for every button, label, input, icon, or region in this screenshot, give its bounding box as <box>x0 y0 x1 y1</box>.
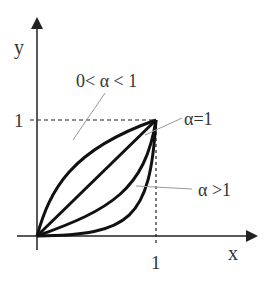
x-axis-label: x <box>228 242 238 264</box>
power-curves-diagram: y x 1 1 0< α < 1 α=1 α >1 <box>0 0 272 292</box>
curve-linear <box>37 120 156 236</box>
y-axis-label: y <box>14 36 24 59</box>
y-tick-one: 1 <box>14 110 24 131</box>
linear-label: α=1 <box>184 109 213 129</box>
concave-leader <box>73 93 105 140</box>
convex-label: α >1 <box>198 180 231 200</box>
x-tick-one: 1 <box>151 252 161 273</box>
concave-label: 0< α < 1 <box>76 71 137 91</box>
